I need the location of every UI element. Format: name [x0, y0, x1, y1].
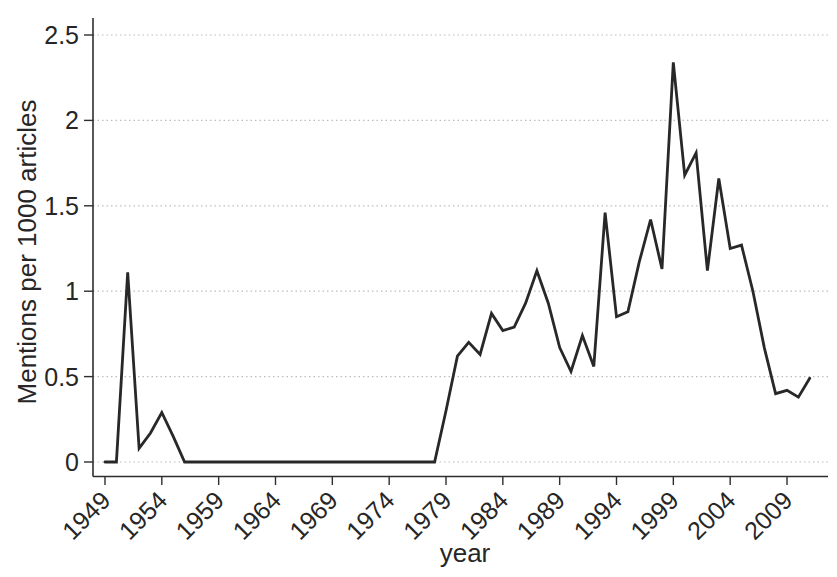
- x-tick-label: 1964: [227, 486, 286, 545]
- x-tick-label: 1999: [625, 486, 684, 545]
- x-tick-label: 1974: [341, 486, 400, 545]
- x-tick-label: 2009: [738, 486, 797, 545]
- x-tick-label: 1954: [113, 486, 172, 545]
- x-tick-label: 1989: [511, 486, 570, 545]
- y-tick-label: 1.5: [44, 192, 79, 220]
- y-tick-label: 1: [65, 277, 79, 305]
- x-tick-label: 2004: [682, 486, 741, 545]
- y-tick-label: 2: [65, 106, 79, 134]
- y-tick-label: 0.5: [44, 363, 79, 391]
- x-tick-label: 1969: [284, 486, 343, 545]
- x-tick-label: 1949: [56, 486, 115, 545]
- line-chart-svg: 00.511.522.51949195419591964196919741979…: [0, 0, 837, 577]
- x-tick-label: 1994: [568, 486, 627, 545]
- x-axis-title: year: [365, 538, 565, 568]
- x-tick-label: 1979: [397, 486, 456, 545]
- x-tick-label: 1959: [170, 486, 229, 545]
- y-tick-label: 2.5: [44, 21, 79, 49]
- data-line: [105, 62, 810, 462]
- y-tick-label: 0: [65, 448, 79, 476]
- line-chart-figure: Mentions per 1000 articles 00.511.522.51…: [0, 0, 837, 577]
- x-tick-label: 1984: [454, 486, 513, 545]
